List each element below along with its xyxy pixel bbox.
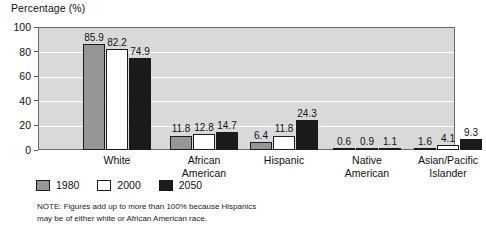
x-axis-category-label: Native American (322, 154, 412, 179)
bar-value-label: 9.3 (454, 128, 486, 138)
x-axis-category-label: African American (159, 154, 249, 179)
chart-note: NOTE: Figures add up to more than 100% b… (37, 201, 337, 224)
y-axis-tick-label: 60 (19, 71, 31, 81)
y-axis-tick-label: 20 (19, 120, 31, 130)
x-axis-category-label: Hispanic (239, 154, 329, 167)
chart-legend: 1980 2000 2050 (36, 180, 214, 191)
bar (460, 139, 482, 150)
legend-swatch-2050-icon (159, 180, 173, 191)
y-axis-tick-label: 40 (19, 96, 31, 106)
legend-label-2000: 2000 (117, 180, 140, 191)
y-axis-tick-mark (34, 125, 38, 126)
y-axis-title: Percentage (%) (11, 2, 85, 14)
y-axis-tick-mark (34, 51, 38, 52)
y-axis-tick-mark (34, 27, 38, 28)
legend-entry: 2050 (159, 180, 202, 191)
plot-area (38, 27, 455, 150)
y-axis: 020406080100 (0, 27, 38, 150)
legend-entry: 1980 (36, 180, 79, 191)
x-axis-category-label: Asian/Pacific Islander (403, 154, 486, 179)
x-axis-category-label: White (72, 154, 162, 167)
y-axis-tick-mark (34, 150, 38, 151)
chart-note-line-2: may be of either white or African Americ… (37, 213, 337, 225)
y-axis-tick-label: 100 (13, 22, 31, 32)
chart-note-line-1: NOTE: Figures add up to more than 100% b… (37, 201, 337, 213)
legend-label-1980: 1980 (56, 180, 79, 191)
gridline (39, 126, 454, 127)
legend-swatch-2000-icon (97, 180, 111, 191)
legend-swatch-1980-icon (36, 180, 50, 191)
y-axis-tick-mark (34, 76, 38, 77)
gridline (39, 52, 454, 53)
y-axis-tick-label: 80 (19, 47, 31, 57)
y-axis-tick-label: 0 (25, 145, 31, 155)
gridline (39, 101, 454, 102)
gridline (39, 77, 454, 78)
y-axis-tick-mark (34, 100, 38, 101)
legend-label-2050: 2050 (179, 180, 202, 191)
legend-entry: 2000 (97, 180, 140, 191)
